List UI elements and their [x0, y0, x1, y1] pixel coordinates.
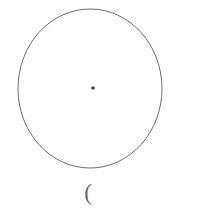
circle-outline [18, 9, 162, 168]
figure-canvas: ( [0, 0, 199, 211]
center-dot [91, 86, 95, 90]
open-parenthesis-glyph: ( [79, 178, 97, 208]
circle-diagram [0, 0, 199, 211]
